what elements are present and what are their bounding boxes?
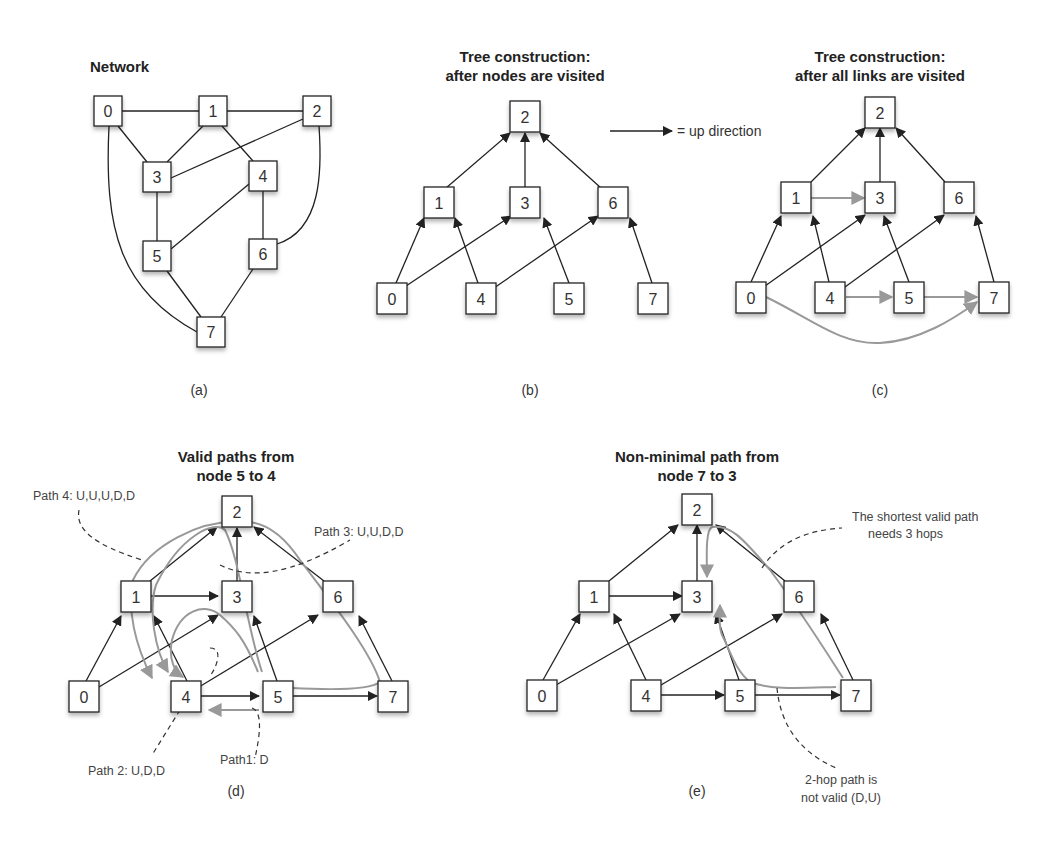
node-0: 0: [94, 96, 122, 126]
node-6: 6: [249, 239, 277, 269]
node-6: 6: [784, 581, 814, 612]
panel-b-caption: (b): [521, 382, 538, 398]
panel-d-title-line1: Valid paths from: [178, 448, 295, 465]
svg-text:3: 3: [233, 589, 242, 606]
node-2: 2: [510, 101, 540, 132]
tree-nodes: 2 1 3 6 0 4 5 7: [736, 97, 1009, 313]
panel-c-title-line2: after all links are visited: [795, 67, 965, 84]
panel-b-title-line2: after nodes are visited: [445, 67, 604, 84]
legend-label: = up direction: [677, 123, 761, 139]
svg-text:7: 7: [852, 688, 861, 705]
svg-text:0: 0: [538, 688, 547, 705]
svg-text:6: 6: [955, 190, 964, 207]
svg-text:6: 6: [609, 195, 618, 212]
node-1: 1: [199, 96, 227, 126]
svg-text:5: 5: [905, 290, 914, 307]
panel-e-title-line1: Non-minimal path from: [615, 448, 779, 465]
node-5: 5: [894, 282, 924, 313]
svg-text:4: 4: [182, 689, 191, 706]
path2-label: Path 2: U,D,D: [88, 764, 165, 778]
panel-d-title-line2: node 5 to 4: [196, 467, 276, 484]
node-0: 0: [527, 680, 557, 711]
node-7: 7: [841, 680, 871, 711]
highlighted-paths: [131, 522, 380, 710]
node-7: 7: [378, 681, 408, 712]
node-5: 5: [725, 680, 755, 711]
panel-c-title-line1: Tree construction:: [815, 48, 946, 65]
svg-text:1: 1: [435, 195, 444, 212]
svg-text:0: 0: [80, 689, 89, 706]
panel-c-tree-links-visited: Tree construction: after all links are v…: [736, 48, 1009, 398]
network-links: [108, 111, 320, 332]
panel-a-network: Network 0 1 2 3 4 5 6 7 (a): [90, 58, 331, 398]
svg-text:7: 7: [990, 290, 999, 307]
node-4: 4: [631, 680, 661, 711]
highlighted-paths: [707, 527, 843, 688]
network-nodes: 0 1 2 3 4 5 6 7: [94, 96, 331, 347]
node-4: 4: [249, 161, 277, 191]
svg-text:1: 1: [792, 190, 801, 207]
svg-text:4: 4: [826, 290, 835, 307]
svg-text:3: 3: [876, 190, 885, 207]
svg-text:1: 1: [209, 103, 218, 120]
node-3: 3: [143, 162, 171, 192]
node-7: 7: [197, 317, 225, 347]
svg-text:4: 4: [259, 168, 268, 185]
node-5: 5: [263, 681, 293, 712]
svg-text:0: 0: [388, 291, 397, 308]
node-2: 2: [303, 96, 331, 126]
node-6: 6: [323, 581, 353, 612]
svg-text:1: 1: [590, 589, 599, 606]
panel-e-title-line2: node 7 to 3: [657, 467, 736, 484]
panel-e-non-minimal-path: Non-minimal path from node 7 to 3 The sh…: [527, 448, 979, 805]
node-2: 2: [222, 496, 252, 527]
path1-label: Path1: D: [220, 753, 269, 767]
node-0: 0: [377, 283, 407, 314]
svg-text:2: 2: [521, 109, 530, 126]
panel-a-caption: (a): [190, 382, 207, 398]
svg-text:4: 4: [642, 688, 651, 705]
panel-d-caption: (d): [227, 783, 244, 799]
node-6: 6: [944, 182, 974, 213]
node-1: 1: [781, 182, 811, 213]
svg-text:3: 3: [693, 589, 702, 606]
panel-e-caption: (e): [688, 783, 705, 799]
svg-text:6: 6: [795, 589, 804, 606]
node-3: 3: [865, 182, 895, 213]
node-1: 1: [424, 187, 454, 218]
svg-text:7: 7: [207, 324, 216, 341]
svg-text:1: 1: [132, 589, 141, 606]
svg-text:7: 7: [649, 291, 658, 308]
svg-text:6: 6: [259, 246, 268, 263]
node-2: 2: [682, 494, 712, 525]
node-4: 4: [815, 282, 845, 313]
node-0: 0: [736, 282, 766, 313]
svg-text:2: 2: [693, 502, 702, 519]
node-4: 4: [466, 283, 496, 314]
svg-text:4: 4: [477, 291, 486, 308]
node-3: 3: [682, 581, 712, 612]
panel-b-tree-nodes-visited: Tree construction: after nodes are visit…: [377, 48, 761, 398]
legend-up-direction: = up direction: [610, 123, 761, 139]
svg-text:0: 0: [747, 290, 756, 307]
node-0: 0: [69, 681, 99, 712]
node-5: 5: [143, 241, 171, 271]
shortest-label-line1: The shortest valid path: [852, 510, 979, 524]
svg-text:7: 7: [389, 689, 398, 706]
svg-text:0: 0: [104, 103, 113, 120]
dashed-callouts: [762, 528, 842, 768]
node-1: 1: [579, 581, 609, 612]
panel-b-title-line1: Tree construction:: [460, 48, 591, 65]
svg-text:6: 6: [334, 589, 343, 606]
svg-text:5: 5: [153, 248, 162, 265]
node-2: 2: [865, 97, 895, 128]
dashed-callouts: [79, 510, 350, 758]
svg-text:3: 3: [521, 195, 530, 212]
svg-text:5: 5: [736, 688, 745, 705]
node-5: 5: [554, 283, 584, 314]
svg-text:2: 2: [876, 105, 885, 122]
invalid-label-line2: not valid (D,U): [801, 791, 881, 805]
svg-text:2: 2: [233, 504, 242, 521]
node-1: 1: [121, 581, 151, 612]
node-6: 6: [598, 187, 628, 218]
